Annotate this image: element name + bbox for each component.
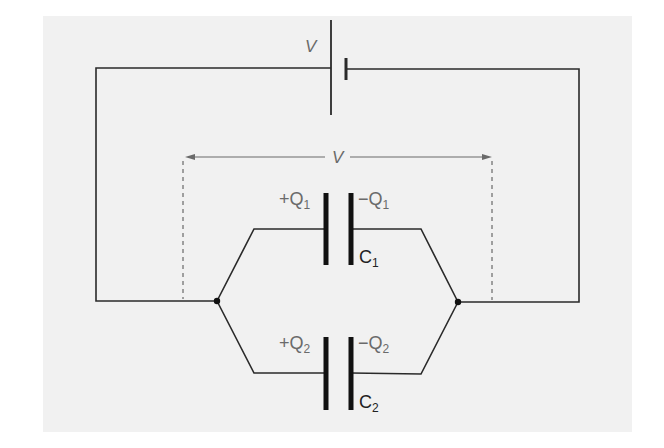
arrow-left-icon [185, 154, 195, 160]
capacitor-c1-icon [326, 193, 351, 265]
left-junction-dot [214, 298, 220, 304]
capacitor-c2-icon [326, 337, 351, 410]
battery-voltage-label: V [305, 37, 318, 56]
circuit-diagram: V V +Q1 −Q1 C1 +Q2 −Q2 C2 [0, 0, 664, 448]
branch-top-left [217, 229, 326, 301]
left-wire [96, 68, 331, 301]
parallel-branches [217, 229, 458, 374]
c1-name-label: C1 [359, 247, 379, 270]
right-wire [347, 69, 579, 302]
branch-bottom-left [217, 301, 326, 373]
c1-plus-charge-label: +Q1 [279, 189, 311, 212]
c1-minus-charge-label: −Q1 [358, 189, 390, 212]
c2-minus-charge-label: −Q2 [358, 333, 390, 356]
battery-icon [331, 20, 346, 115]
arrow-right-icon [482, 154, 492, 160]
c2-plus-charge-label: +Q2 [279, 333, 311, 356]
outer-wire-loop [96, 68, 579, 302]
c2-name-label: C2 [359, 392, 379, 415]
span-voltage-label: V [332, 148, 345, 167]
right-junction-dot [455, 299, 461, 305]
